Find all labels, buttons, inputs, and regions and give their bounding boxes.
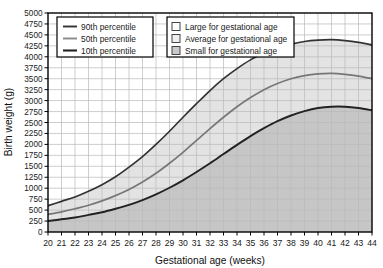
x-tick-label: 30: [178, 238, 188, 248]
region-label-average: Average for gestational age: [185, 34, 288, 44]
y-tick-label: 1500: [24, 162, 43, 171]
x-tick-label: 43: [354, 238, 364, 248]
y-tick-label: 0: [38, 228, 43, 237]
x-tick-label: 36: [259, 238, 269, 248]
x-tick-label: 40: [313, 238, 323, 248]
x-tick-label: 42: [340, 238, 350, 248]
y-tick-label: 1750: [24, 151, 43, 160]
x-tick-label: 34: [232, 238, 242, 248]
y-axis-title: Birth weight (g): [3, 88, 14, 157]
x-tick-label: 33: [219, 238, 229, 248]
y-tick-label: 500: [29, 206, 43, 215]
chart-canvas: 0250500750100012501500175020002250250027…: [0, 0, 383, 268]
region-swatch-large: [172, 23, 180, 31]
y-tick-label: 2750: [24, 108, 43, 117]
legend-label-90th: 90th percentile: [81, 22, 136, 32]
x-tick-label: 25: [111, 238, 121, 248]
x-tick-label: 31: [192, 238, 202, 248]
y-tick-label: 3500: [24, 75, 43, 84]
x-tick-label: 28: [151, 238, 161, 248]
x-tick-label: 39: [300, 238, 310, 248]
x-tick-label: 22: [70, 238, 80, 248]
y-tick-label: 3250: [24, 86, 43, 95]
x-tick-label: 29: [165, 238, 175, 248]
y-tick-label: 4000: [24, 53, 43, 62]
x-tick-label: 26: [124, 238, 134, 248]
legend-label-10th: 10th percentile: [81, 46, 136, 56]
region-legend: Large for gestational age Average for ge…: [167, 17, 294, 57]
y-tick-label: 4750: [24, 20, 43, 29]
y-tick-label: 1000: [24, 184, 43, 193]
x-tick-label: 37: [273, 238, 283, 248]
x-tick-label: 38: [286, 238, 296, 248]
x-tick-label: 27: [138, 238, 148, 248]
percentile-legend: 90th percentile 50th percentile 10th per…: [57, 17, 153, 57]
y-tick-label: 4500: [24, 31, 43, 40]
legend-label-50th: 50th percentile: [81, 34, 136, 44]
y-tick-label: 4250: [24, 42, 43, 51]
y-axis-ticks: 0250500750100012501500175020002250250027…: [24, 9, 48, 237]
x-tick-label: 21: [57, 238, 67, 248]
y-tick-label: 5000: [24, 9, 43, 18]
y-tick-label: 750: [29, 195, 43, 204]
region-swatch-small: [172, 47, 180, 55]
x-tick-label: 41: [327, 238, 337, 248]
y-tick-label: 2250: [24, 129, 43, 138]
y-tick-label: 1250: [24, 173, 43, 182]
x-tick-label: 20: [43, 238, 53, 248]
y-tick-label: 2000: [24, 140, 43, 149]
y-tick-label: 3750: [24, 64, 43, 73]
x-axis-title: Gestational age (weeks): [155, 255, 265, 266]
region-swatch-average: [172, 35, 180, 43]
x-tick-label: 44: [367, 238, 377, 248]
x-tick-label: 24: [97, 238, 107, 248]
y-tick-label: 3000: [24, 97, 43, 106]
y-tick-label: 250: [29, 217, 43, 226]
x-tick-label: 32: [205, 238, 215, 248]
x-axis-ticks: 2021222324252627282930313233343536373839…: [43, 232, 377, 248]
x-tick-label: 23: [84, 238, 94, 248]
y-tick-label: 2500: [24, 119, 43, 128]
x-tick-label: 35: [246, 238, 256, 248]
birth-weight-percentile-chart: 0250500750100012501500175020002250250027…: [0, 0, 383, 268]
region-label-small: Small for gestational age: [185, 46, 278, 56]
region-label-large: Large for gestational age: [185, 22, 278, 32]
